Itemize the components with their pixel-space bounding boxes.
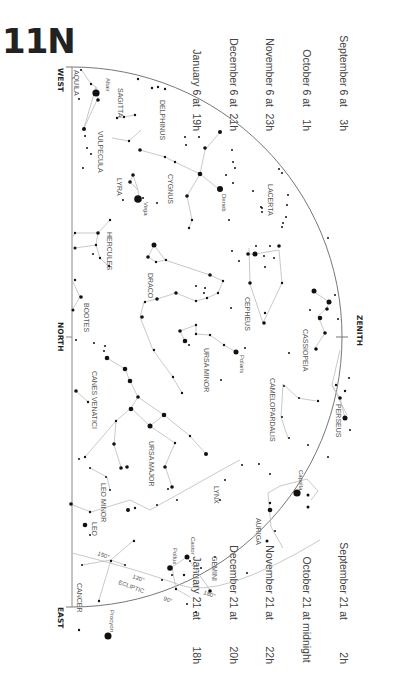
label-ursa-minor: URSA MINOR [203, 348, 210, 392]
label-deneb: Deneb [221, 194, 227, 212]
ecliptic-mark-90: 90° [163, 595, 174, 604]
star-capella [293, 489, 300, 496]
label-vulpecula: VULPECULA [97, 131, 104, 173]
star-altair [92, 89, 99, 96]
label-lacerta: LACERTA [267, 184, 274, 216]
label-camelopardalis: CAMELOPARDALIS [269, 378, 276, 442]
label-leo-minor: LEO MINOR [100, 483, 107, 522]
label-cygnus: CYGNUS [167, 174, 174, 204]
star-polaris [234, 350, 239, 355]
label-cancer: CANCER [76, 583, 83, 613]
label-lynx: LYNX [213, 486, 220, 504]
label-leo: LEO [91, 522, 98, 537]
west-label: WEST [56, 68, 65, 93]
label-polaris: Polaris [239, 355, 245, 373]
label-canes-venatici: CANES VENATICI [91, 371, 98, 429]
ecliptic-mark-120: 120° [132, 573, 146, 583]
label-perseus: PERSEUS [335, 404, 342, 438]
star-deneb [217, 186, 223, 192]
star-vega [134, 195, 142, 203]
constellation-labels: AQUILA SAGITTA DELPHINUS VULPECULA LYRA … [72, 70, 342, 613]
east-label: EAST [56, 607, 65, 629]
star-procyon [105, 633, 112, 640]
star-castor [185, 555, 190, 560]
star-pollux [167, 565, 173, 571]
north-label: NORTH [56, 322, 65, 351]
star-map: WEST NORTH EAST ZENITH [0, 0, 399, 676]
label-lyra: LYRA [116, 178, 123, 196]
label-gemini: GEMINI [211, 556, 218, 581]
label-altair: Altair [105, 78, 111, 92]
label-sagitta: SAGITTA [117, 88, 124, 118]
label-procyon: Procyon [109, 610, 115, 632]
label-capella: Capella [298, 470, 304, 491]
label-castor: Castor [190, 537, 196, 555]
label-pollux: Pollux [172, 548, 178, 564]
ecliptic-mark-150: 150° [97, 550, 111, 560]
label-vega: Vega [143, 202, 149, 216]
label-delphinus: DELPHINUS [159, 100, 166, 140]
label-cassiopeia: CASSIOPEIA [302, 329, 309, 372]
label-auriga: AURIGA [255, 518, 262, 545]
zenith-label: ZENITH [355, 315, 364, 346]
label-cepheus: CEPHEUS [244, 297, 251, 331]
label-ursa-major: URSA MAJOR [148, 441, 155, 487]
label-bootes: BOOTES [83, 303, 90, 333]
ecliptic-mark-180: 180° [203, 589, 217, 599]
label-aquila: AQUILA [72, 70, 80, 96]
label-hercules: HERCULES [106, 232, 113, 270]
label-draco: DRACO [147, 273, 154, 299]
